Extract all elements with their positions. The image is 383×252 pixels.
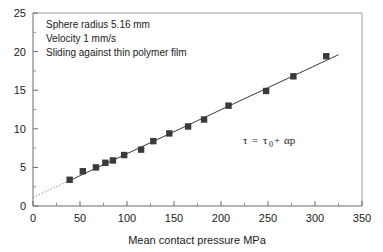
data-point-markers xyxy=(66,53,329,183)
x-tick-label: 50 xyxy=(74,212,86,224)
data-point xyxy=(150,138,156,144)
x-tick-label: 200 xyxy=(212,212,230,224)
data-point xyxy=(166,130,172,136)
x-tick-label: 300 xyxy=(306,212,324,224)
x-axis-title: Mean contact pressure MPa xyxy=(128,234,266,246)
equation-plus: + xyxy=(274,134,280,146)
y-tick-label: 20 xyxy=(14,46,26,58)
equation-alpha-p: αp xyxy=(284,134,296,146)
annotation-line-3: Sliding against thin polymer film xyxy=(46,47,187,58)
data-point xyxy=(138,146,144,152)
data-point xyxy=(263,88,269,94)
data-point xyxy=(323,53,329,59)
equation-annotation: τ = τ 0 + αp xyxy=(243,134,296,149)
chart-figure: 050100150200250300350 0510152025 Mean co… xyxy=(0,0,383,252)
extrapolation-line xyxy=(33,181,70,198)
y-tick-label: 15 xyxy=(14,84,26,96)
data-point xyxy=(121,152,127,158)
data-point xyxy=(102,160,108,166)
x-tick-label: 150 xyxy=(165,212,183,224)
y-tick-label: 25 xyxy=(14,7,26,19)
x-tick-label: 0 xyxy=(30,212,36,224)
data-point xyxy=(201,116,207,122)
y-tick-label: 5 xyxy=(20,161,26,173)
x-tick-label: 250 xyxy=(259,212,277,224)
data-point xyxy=(80,168,86,174)
equation-tau-base: τ xyxy=(263,134,268,146)
equation-lhs: τ xyxy=(243,134,248,146)
equation-equals: = xyxy=(252,134,258,146)
data-point xyxy=(93,164,99,170)
data-point xyxy=(66,177,72,183)
data-point xyxy=(185,123,191,129)
x-tick-label: 350 xyxy=(353,212,371,224)
y-tick-label: 0 xyxy=(20,200,26,212)
equation-tau-subscript: 0 xyxy=(269,140,273,149)
y-tick-label: 10 xyxy=(14,123,26,135)
annotation-line-1: Sphere radius 5.16 mm xyxy=(46,19,150,30)
x-axis-tick-labels: 050100150200250300350 xyxy=(30,212,371,224)
annotation-line-2: Velocity 1 mm/s xyxy=(46,33,116,44)
scatter-plot: 050100150200250300350 0510152025 Mean co… xyxy=(0,0,383,252)
y-axis-tick-labels: 0510152025 xyxy=(14,7,26,212)
data-point xyxy=(110,157,116,163)
x-tick-label: 100 xyxy=(118,212,136,224)
conditions-annotation: Sphere radius 5.16 mm Velocity 1 mm/s Sl… xyxy=(46,19,187,58)
data-point xyxy=(290,73,296,79)
data-point xyxy=(225,102,231,108)
